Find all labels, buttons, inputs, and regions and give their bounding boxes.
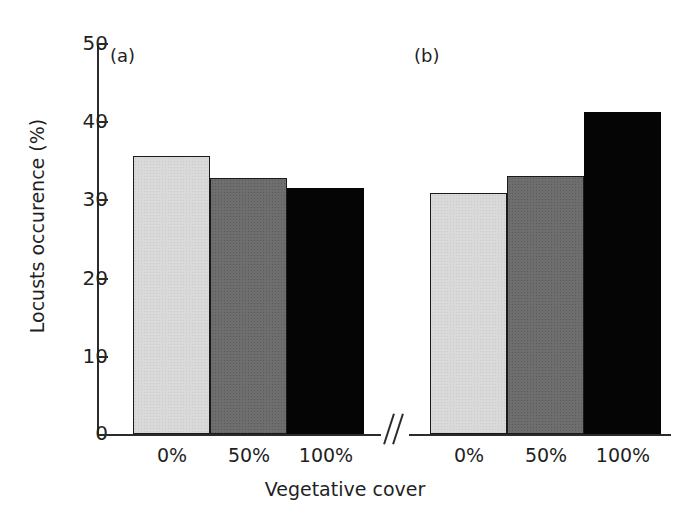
x-axis-line-panel-b (409, 434, 671, 436)
x-tick-label-panel-a-50pct: 50% (209, 444, 289, 466)
y-tick-mark-20 (97, 278, 108, 280)
chart-figure: 50 40 30 20 10 0 Locusts occurence (%) (… (0, 0, 690, 523)
y-tick-10: 10 (0, 356, 108, 358)
y-tick-40: 40 (0, 121, 108, 123)
x-axis-line-panel-a (97, 434, 381, 436)
y-tick-30: 30 (0, 199, 108, 201)
x-axis-title: Vegetative cover (0, 478, 690, 500)
bar-panel-a-0pct[interactable] (133, 156, 210, 434)
y-tick-label-0: 0 (56, 423, 108, 443)
y-tick-mark-40 (97, 121, 108, 123)
x-tick-label-panel-a-100pct: 100% (286, 444, 366, 466)
x-tick-label-panel-b-0pct: 0% (429, 444, 509, 466)
bar-panel-a-100pct[interactable] (287, 188, 364, 434)
y-tick-50: 50 (0, 43, 108, 45)
panel-label-b: (b) (414, 46, 439, 66)
bar-panel-b-50pct[interactable] (507, 176, 584, 434)
bar-panel-b-100pct[interactable] (584, 112, 661, 434)
y-tick-0: 0 (0, 434, 108, 436)
x-tick-label-panel-b-50pct: 50% (506, 444, 586, 466)
y-tick-mark-10 (97, 356, 108, 358)
x-tick-label-panel-b-100pct: 100% (583, 444, 663, 466)
axis-break-marker (380, 413, 410, 447)
bar-panel-b-0pct[interactable] (430, 193, 507, 434)
panel-label-a: (a) (110, 46, 135, 66)
y-axis-title: Locusts occurence (%) (26, 61, 48, 391)
y-tick-20: 20 (0, 278, 108, 280)
y-axis-line (97, 43, 99, 435)
y-tick-mark-30 (97, 199, 108, 201)
x-tick-label-panel-a-0pct: 0% (132, 444, 212, 466)
bar-panel-a-50pct[interactable] (210, 178, 287, 434)
y-tick-mark-50 (97, 43, 108, 45)
